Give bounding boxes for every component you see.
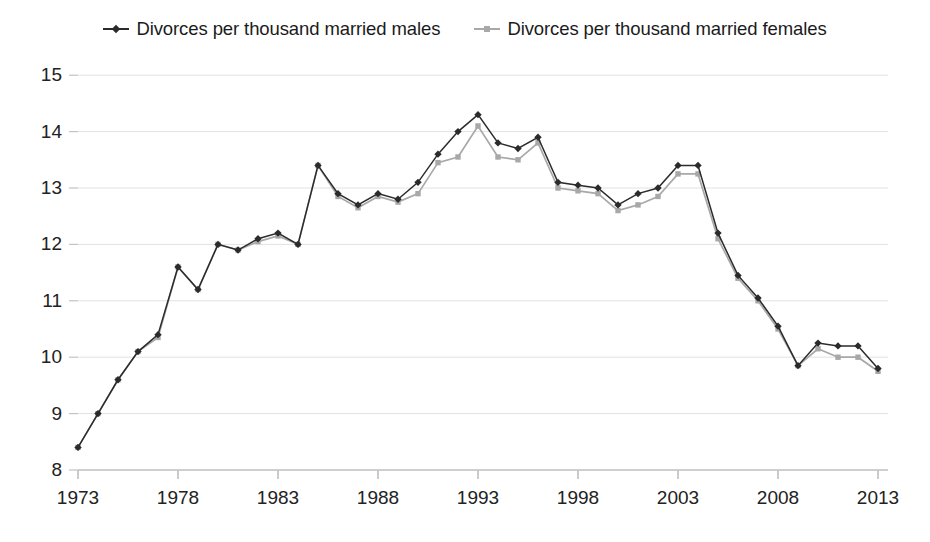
y-tick-label: 9 (16, 403, 62, 425)
series-males (74, 111, 881, 451)
data-point (415, 191, 420, 196)
x-tick-label: 1998 (557, 487, 599, 509)
series-line (78, 115, 878, 448)
data-point (534, 134, 541, 141)
data-point (835, 355, 840, 360)
data-point (555, 185, 560, 190)
x-tick-label: 1993 (457, 487, 499, 509)
x-tick-label: 2008 (757, 487, 799, 509)
line-chart: Divorces per thousand married malesDivor… (0, 0, 930, 542)
x-tick-label: 1978 (157, 487, 199, 509)
data-point (635, 202, 640, 207)
data-point (655, 194, 660, 199)
y-tick-label: 13 (16, 177, 62, 199)
data-point (515, 157, 520, 162)
y-tick-label: 11 (16, 290, 62, 312)
x-tick-label: 2003 (657, 487, 699, 509)
y-tick-label: 14 (16, 121, 62, 143)
x-tick-label: 1983 (257, 487, 299, 509)
plot-area (0, 0, 930, 542)
data-point (514, 145, 521, 152)
y-tick-label: 15 (16, 64, 62, 86)
data-point (475, 123, 480, 128)
data-point (675, 171, 680, 176)
data-point (455, 154, 460, 159)
data-point (834, 342, 841, 349)
x-tick-label: 1973 (57, 487, 99, 509)
y-tick-label: 8 (16, 459, 62, 481)
data-point (435, 160, 440, 165)
x-tick-label: 2013 (857, 487, 899, 509)
data-point (634, 190, 641, 197)
data-point (815, 346, 820, 351)
y-tick-label: 12 (16, 233, 62, 255)
data-point (554, 179, 561, 186)
data-point (495, 154, 500, 159)
data-point (595, 191, 600, 196)
data-point (855, 355, 860, 360)
data-point (694, 162, 701, 169)
y-tick-label: 10 (16, 346, 62, 368)
x-tick-label: 1988 (357, 487, 399, 509)
data-point (615, 208, 620, 213)
data-point (575, 188, 580, 193)
